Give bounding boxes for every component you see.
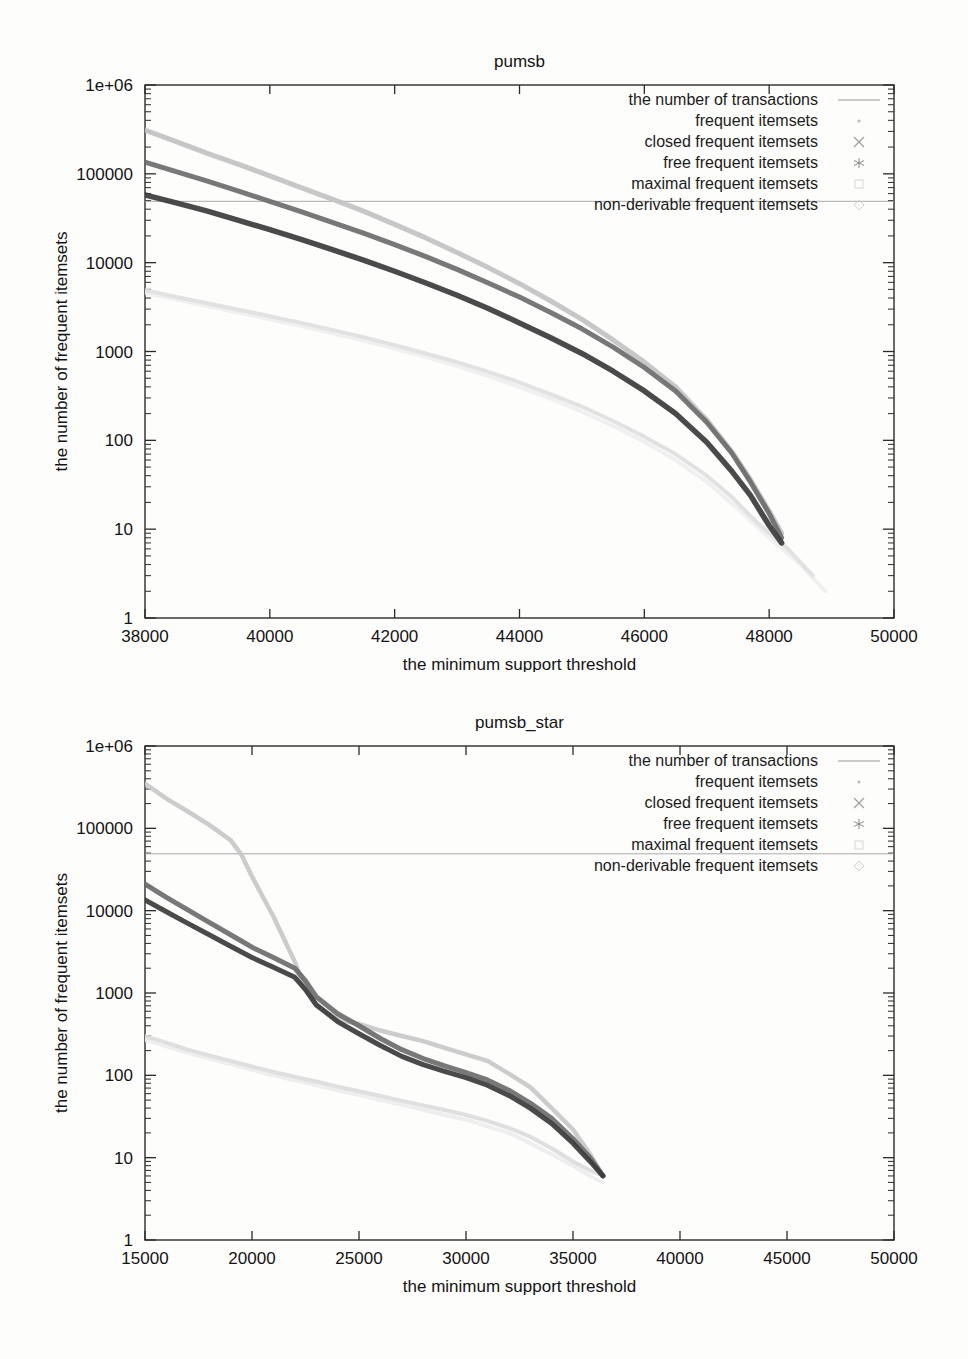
x-axis-tick-label: 50000: [870, 1249, 917, 1268]
y-axis-tick-label: 10000: [86, 254, 133, 273]
x-axis-tick-label: 15000: [121, 1249, 168, 1268]
series-free-frequent-itemsets: [145, 900, 603, 1176]
legend-key-square-icon: [855, 841, 863, 849]
legend-key-star-icon: [854, 158, 864, 168]
legend-label-4: maximal frequent itemsets: [631, 175, 818, 192]
y-axis-tick-label: 100000: [76, 165, 133, 184]
y-axis-tick-label: 100: [105, 431, 133, 450]
legend-label-1: frequent itemsets: [695, 112, 818, 129]
legend-key-cross-icon: [854, 137, 864, 147]
chart-pumsb: pumsb1101001000100001000001e+06380004000…: [0, 0, 968, 672]
x-axis-tick-label: 40000: [656, 1249, 703, 1268]
x-axis-tick-label: 25000: [335, 1249, 382, 1268]
legend-key-diamond-icon: [854, 861, 864, 871]
chart-pumsb-star: pumsb_star1101001000100001000001e+061500…: [0, 660, 968, 1350]
x-axis-tick-label: 35000: [549, 1249, 596, 1268]
y-axis-tick-label: 1e+06: [85, 737, 133, 756]
y-axis-tick-label: 1e+06: [85, 76, 133, 95]
x-axis-tick-label: 44000: [496, 627, 543, 646]
legend-label-0: the number of transactions: [629, 91, 818, 108]
x-axis-title: the minimum support threshold: [403, 1277, 636, 1296]
x-axis-tick-label: 48000: [746, 627, 793, 646]
x-axis-tick-label: 45000: [763, 1249, 810, 1268]
legend-label-1: frequent itemsets: [695, 773, 818, 790]
legend: the number of transactionsfrequent items…: [594, 752, 880, 874]
x-axis-tick-label: 46000: [621, 627, 668, 646]
legend-label-3: free frequent itemsets: [663, 815, 818, 832]
legend-label-0: the number of transactions: [629, 752, 818, 769]
x-axis-tick-label: 50000: [870, 627, 917, 646]
y-axis-tick-label: 10: [114, 520, 133, 539]
legend-key-cross-icon: [854, 798, 864, 808]
legend-key-square-icon: [855, 180, 863, 188]
legend-label-2: closed frequent itemsets: [645, 794, 818, 811]
y-axis-tick-label: 1000: [95, 343, 133, 362]
figure-page: pumsb1101001000100001000001e+06380004000…: [0, 0, 968, 1359]
legend-label-4: maximal frequent itemsets: [631, 836, 818, 853]
y-axis-title: the number of frequent itemsets: [52, 231, 71, 471]
x-axis-tick-label: 30000: [442, 1249, 489, 1268]
x-axis-tick-label: 40000: [246, 627, 293, 646]
legend-label-3: free frequent itemsets: [663, 154, 818, 171]
y-axis-tick-label: 1: [124, 1231, 133, 1250]
legend-label-5: non-derivable frequent itemsets: [594, 196, 818, 213]
legend: the number of transactionsfrequent items…: [594, 91, 880, 213]
legend-label-5: non-derivable frequent itemsets: [594, 857, 818, 874]
y-axis-title: the number of frequent itemsets: [52, 873, 71, 1113]
legend-label-2: closed frequent itemsets: [645, 133, 818, 150]
y-axis-tick-label: 100: [105, 1066, 133, 1085]
x-axis-tick-label: 42000: [371, 627, 418, 646]
legend-key-dot-icon: [857, 119, 860, 122]
x-axis-tick-label: 20000: [228, 1249, 275, 1268]
legend-key-star-icon: [854, 819, 864, 829]
y-axis-tick-label: 100000: [76, 819, 133, 838]
chart-title: pumsb: [494, 52, 545, 71]
x-axis-tick-label: 38000: [121, 627, 168, 646]
y-axis-tick-label: 1000: [95, 984, 133, 1003]
chart-title: pumsb_star: [475, 713, 564, 732]
y-axis-tick-label: 10000: [86, 902, 133, 921]
chart-pumsb-star-canvas: pumsb_star1101001000100001000001e+061500…: [0, 660, 968, 1350]
y-axis-tick-label: 10: [114, 1149, 133, 1168]
y-axis-tick-label: 1: [124, 609, 133, 628]
chart-pumsb-canvas: pumsb1101001000100001000001e+06380004000…: [0, 0, 968, 672]
legend-key-dot-icon: [857, 780, 860, 783]
series-frequent-itemsets: [145, 784, 603, 1176]
